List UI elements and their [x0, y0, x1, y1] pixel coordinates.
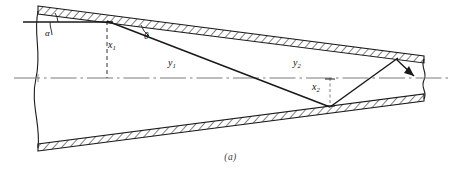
alpha-leader-line [50, 22, 52, 35]
x1-label: x1 [108, 40, 116, 52]
bottom-tapered-wall [38, 94, 424, 151]
y1-label: y1 [168, 58, 176, 70]
y2-label-subscript: 2 [297, 62, 300, 69]
right-break-line [423, 59, 425, 99]
y2-label: y2 [293, 58, 301, 70]
top-tapered-wall [38, 6, 424, 63]
top-wall-band [38, 6, 424, 63]
x2-dimension-line [325, 78, 335, 107]
bottom-wall-band [38, 94, 424, 151]
figure-container: α θ x1 x2 y1 y2 (a) [0, 0, 461, 179]
y1-label-subscript: 1 [172, 62, 175, 69]
angle-alpha-label: α [45, 29, 50, 38]
x2-label-subscript: 2 [316, 86, 319, 93]
x2-label: x2 [312, 82, 320, 94]
x1-label-subscript: 1 [112, 44, 115, 51]
angle-theta-label: θ [144, 32, 149, 42]
figure-caption: (a) [0, 152, 461, 162]
